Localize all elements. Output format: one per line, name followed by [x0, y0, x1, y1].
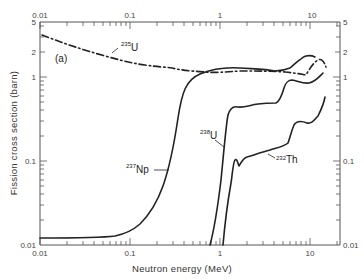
th232-label: 232Th	[276, 154, 298, 165]
x-tick-label-bottom-1: 1	[218, 249, 223, 258]
x-axis-title: Neutron energy (MeV)	[132, 263, 232, 274]
y-tick-label-left-5: 5	[32, 18, 37, 27]
x-ticks	[40, 22, 337, 245]
y-tick-label-left-2: 2	[32, 48, 37, 57]
y-tick-label-left-0.1: 0.1	[25, 157, 37, 166]
svg-text:232Th: 232Th	[276, 154, 298, 165]
y-tick-label-right-0.1: 0.1	[343, 157, 355, 166]
u235-leader	[112, 48, 118, 53]
u238-curve	[210, 73, 323, 245]
y-tick-label-left-1: 1	[32, 73, 37, 82]
y-tick-label-right-0.01: 0.01	[343, 241, 359, 250]
svg-text:237Np: 237Np	[126, 163, 149, 175]
th232-leader	[268, 154, 275, 158]
plot-frame	[40, 22, 340, 245]
th232-curve	[223, 97, 325, 245]
x-tick-label-top-0.1: 0.1	[124, 11, 136, 20]
np237-curve	[40, 56, 315, 238]
u238-label: 238U	[200, 129, 217, 141]
y-tick-label-left-0.01: 0.01	[20, 241, 36, 250]
x-tick-label-top-10: 10	[308, 11, 317, 20]
y-tick-label-right-2: 2	[343, 48, 348, 57]
u238-leader	[215, 140, 224, 147]
svg-text:238U: 238U	[200, 129, 217, 141]
x-tick-label-bottom-0.1: 0.1	[124, 249, 136, 258]
panel-label: (a)	[55, 53, 67, 64]
u235-label: 235U	[121, 41, 138, 53]
x-tick-label-top-1: 1	[218, 11, 223, 20]
y-tick-label-right-5: 5	[343, 18, 348, 27]
x-tick-label-bottom-0.01: 0.01	[32, 249, 48, 258]
svg-text:235U: 235U	[121, 41, 138, 53]
x-tick-label-bottom-10: 10	[306, 249, 315, 258]
y-axis-title: Fission cross section (barn)	[8, 71, 19, 196]
fission-cross-section-chart: 0.01 0.1 1 10 0.01 0.1 1 10 5 2 1 0.1 0.…	[0, 0, 364, 279]
np237-label: 237Np	[126, 163, 149, 175]
u235-curve	[42, 35, 326, 75]
y-tick-label-right-1: 1	[343, 73, 348, 82]
